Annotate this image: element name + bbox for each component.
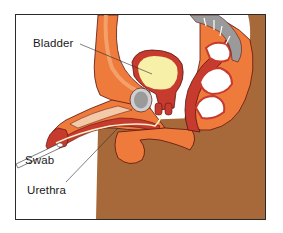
- anatomy-diagram: [0, 0, 283, 233]
- swab-tip: [57, 143, 63, 147]
- prostate-right: [165, 103, 172, 115]
- pubic-bone-inner: [134, 92, 148, 109]
- bowel-loop-1: [206, 43, 231, 62]
- label-swab: Swab: [25, 155, 54, 167]
- label-bladder: Bladder: [33, 38, 73, 50]
- label-urethra: Urethra: [27, 185, 66, 197]
- prostate-left: [155, 103, 162, 115]
